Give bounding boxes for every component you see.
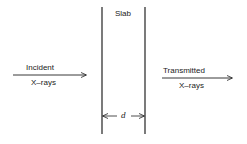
slab-label: Slab: [115, 10, 131, 18]
incident-label-line1: Incident: [26, 64, 54, 72]
slab-transmission-diagram: Slab Incident X–rays Transmitted X–rays …: [0, 0, 247, 144]
transmitted-label-line2: X–rays: [179, 82, 204, 90]
thickness-label: d: [121, 111, 126, 120]
transmitted-label-line1: Transmitted: [163, 67, 205, 75]
incident-label-line2: X–rays: [31, 79, 56, 87]
diagram-graphics: [0, 0, 247, 144]
